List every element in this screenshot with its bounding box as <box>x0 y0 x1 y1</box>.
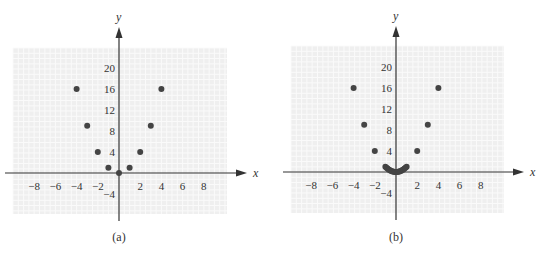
data-point <box>361 122 367 128</box>
y-tick-label: 12 <box>381 103 392 115</box>
panel-a: xy−8−6−4−22468−448121620(a) <box>5 10 259 244</box>
x-tick-label: 6 <box>180 180 186 192</box>
x-tick-label: −6 <box>50 180 62 192</box>
y-tick-label: 8 <box>110 125 116 137</box>
y-tick-label: 4 <box>387 145 393 157</box>
y-tick-label: −4 <box>380 187 392 199</box>
x-tick-label: −6 <box>327 179 339 191</box>
y-tick-label: 16 <box>104 83 116 95</box>
data-point <box>425 122 431 128</box>
data-point <box>158 86 164 92</box>
data-point <box>148 123 154 129</box>
x-tick-label: 8 <box>478 179 484 191</box>
data-point <box>84 123 90 129</box>
x-tick-label: −8 <box>28 180 40 192</box>
y-tick-label: 20 <box>104 62 116 74</box>
x-tick-label: 6 <box>457 179 463 191</box>
x-axis-arrow <box>513 169 524 176</box>
x-tick-label: −8 <box>305 179 317 191</box>
figure: xy−8−6−4−22468−448121620(a) xy−8−6−4−224… <box>0 0 539 253</box>
data-point <box>105 165 111 171</box>
x-tick-label: −2 <box>369 179 381 191</box>
x-axis-label: x <box>529 165 536 179</box>
x-tick-label: 2 <box>137 180 143 192</box>
y-axis-label: y <box>392 9 399 23</box>
y-tick-label: 12 <box>104 104 115 116</box>
x-tick-label: 8 <box>201 180 207 192</box>
y-axis-arrow <box>393 26 400 37</box>
x-tick-label: −4 <box>71 180 83 192</box>
x-tick-label: 4 <box>436 179 442 191</box>
x-tick-label: 4 <box>159 180 165 192</box>
x-tick-label: 2 <box>414 179 420 191</box>
y-tick-label: 20 <box>381 61 393 73</box>
panel-b: xy−8−6−4−22468−448121620(b) <box>283 9 536 244</box>
y-tick-label: −4 <box>103 188 115 200</box>
data-point <box>372 148 378 154</box>
data-point <box>351 85 357 91</box>
x-tick-label: −2 <box>92 180 104 192</box>
panel-caption: (a) <box>112 230 125 244</box>
data-point <box>404 164 410 170</box>
data-point <box>414 148 420 154</box>
y-tick-label: 16 <box>381 82 393 94</box>
y-axis-arrow <box>116 27 123 38</box>
data-point <box>127 165 133 171</box>
y-tick-label: 8 <box>387 124 393 136</box>
x-axis-arrow <box>236 170 247 177</box>
x-tick-label: −4 <box>348 179 360 191</box>
panel-caption: (b) <box>389 230 403 244</box>
data-point <box>137 149 143 155</box>
x-axis-label: x <box>252 166 259 180</box>
data-point <box>95 149 101 155</box>
y-axis-label: y <box>115 10 122 24</box>
y-tick-label: 4 <box>110 146 116 158</box>
data-point <box>116 170 122 176</box>
data-point <box>74 86 80 92</box>
data-point <box>435 85 441 91</box>
